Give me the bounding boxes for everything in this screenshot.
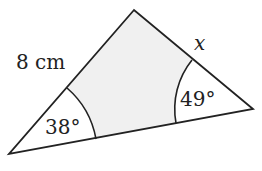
unknown-side-label: x — [194, 33, 205, 53]
triangle-diagram: 8 cm x 38° 49° — [0, 0, 262, 171]
side-length-label: 8 cm — [16, 52, 65, 72]
triangle-figure — [0, 0, 262, 171]
angle-right-label: 49° — [180, 89, 215, 109]
angle-left-label: 38° — [45, 117, 80, 137]
